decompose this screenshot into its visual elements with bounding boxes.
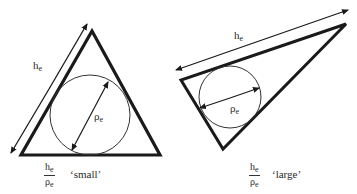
right-triangle-group xyxy=(176,10,348,149)
right-ratio-denominator: ρe xyxy=(250,176,259,189)
left-triangle-group xyxy=(11,24,160,155)
right-ratio-numerator: he xyxy=(249,162,260,176)
right-diameter-arrow xyxy=(230,88,259,98)
left-triangle xyxy=(21,31,160,155)
right-incircle xyxy=(199,66,261,128)
left-edge-label-sub: e xyxy=(39,64,43,73)
left-ratio-num-sub: e xyxy=(50,165,54,174)
right-ratio-fraction: he ρe xyxy=(249,162,260,189)
left-edge-length-arrow-lower xyxy=(11,89,49,153)
left-ratio-denominator: ρe xyxy=(45,176,54,189)
right-edge-label-sub: e xyxy=(240,34,244,43)
right-radius-label: ρe xyxy=(230,103,239,116)
left-ratio-den-sub: e xyxy=(50,180,54,189)
right-edge-label: he xyxy=(234,30,243,43)
right-radius-label-sub: e xyxy=(236,107,240,116)
left-ratio-numerator: he xyxy=(44,162,55,176)
left-edge-length-arrow xyxy=(49,24,87,89)
left-radius-label-sub: e xyxy=(100,115,104,124)
right-diameter-arrow-lower xyxy=(200,98,230,108)
right-ratio-descriptor: ‘large’ xyxy=(272,168,301,180)
left-ratio-descriptor: ‘small’ xyxy=(70,168,101,180)
left-radius-label: ρe xyxy=(94,111,103,124)
left-diameter-arrow-lower xyxy=(72,116,90,150)
right-edge-length-arrow-lower xyxy=(176,40,262,70)
right-ratio-den-sub: e xyxy=(255,180,259,189)
right-triangle xyxy=(181,24,346,149)
right-ratio-num-sub: e xyxy=(255,165,259,174)
left-ratio-fraction: he ρe xyxy=(44,162,55,189)
left-edge-label: he xyxy=(33,60,42,73)
